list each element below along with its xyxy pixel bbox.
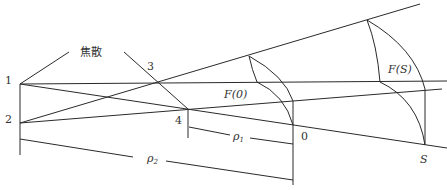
rho2-dimension-left — [20, 139, 133, 157]
fs-inner-arc — [367, 20, 380, 82]
f0-label: F(0) — [223, 88, 247, 101]
point-s-label: S — [420, 153, 428, 166]
rho1-label: ρ1 — [232, 130, 244, 144]
ray-2-upper — [20, 4, 420, 123]
point-0-label: 0 — [301, 130, 308, 143]
fs-label: F(S) — [387, 63, 412, 76]
fs-outer-arc — [367, 20, 425, 145]
fs-lower-arc — [380, 82, 425, 145]
point-1-label: 1 — [5, 74, 12, 87]
point-4-label: 4 — [175, 114, 182, 127]
caustic-diagram: 焦散 1 2 3 4 0 S F(0) F(S) ρ1 ρ2 — [0, 0, 447, 190]
caustic-leader-right-ray — [124, 52, 188, 109]
caustic-label: 焦散 — [80, 45, 102, 59]
point-3-label: 3 — [147, 60, 154, 73]
caustic-leader-left — [20, 52, 69, 84]
rho2-label: ρ2 — [146, 152, 158, 166]
rho1-dimension-left — [189, 127, 230, 135]
rho1-dimension-right — [250, 138, 293, 144]
point-2-label: 2 — [5, 113, 12, 126]
rho2-dimension-right — [166, 161, 293, 180]
